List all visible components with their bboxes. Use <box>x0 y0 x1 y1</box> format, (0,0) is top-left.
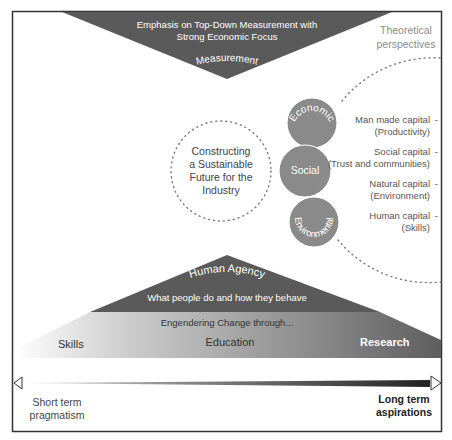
capital-item: Human capital (Skills) - <box>300 210 430 242</box>
center-line-4: Industry <box>176 184 266 197</box>
capital-desc: (Environment) <box>300 190 430 202</box>
center-line-1: Constructing <box>176 145 266 158</box>
band-research: Research <box>360 336 410 348</box>
short-term-line2: pragmatism <box>22 409 92 422</box>
band-caption: Engendering Change through... <box>127 317 327 328</box>
capital-dash: - <box>435 210 438 222</box>
perspective-arc-bottom <box>338 240 441 283</box>
capital-desc: (Skills) <box>300 222 430 234</box>
center-line-2: a Sustainable <box>176 158 266 171</box>
center-title: Constructing a Sustainable Future for th… <box>176 145 266 197</box>
top-emphasis-text: Emphasis on Top-Down Measurement with St… <box>100 19 354 43</box>
capital-dash: - <box>435 146 438 158</box>
long-term-line2: aspirations <box>368 406 440 419</box>
short-term-line1: Short term <box>22 396 92 409</box>
theoretical-perspectives-label: Theoretical perspectives <box>372 23 440 51</box>
band-education: Education <box>190 336 270 348</box>
arrow-right-icon <box>431 376 441 390</box>
human-agency-subtitle: What people do and how they behave <box>127 292 327 303</box>
long-term-label: Long term aspirations <box>368 393 440 419</box>
short-term-label: Short term pragmatism <box>22 396 92 422</box>
capital-desc: (Trust and communities) <box>300 158 430 170</box>
center-line-3: Future for the <box>176 171 266 184</box>
theoretical-line1: Theoretical <box>372 23 440 37</box>
arrow-left-icon <box>14 377 22 389</box>
capital-name: Man made capital <box>300 114 430 126</box>
capital-name: Social capital <box>300 146 430 158</box>
band-skills: Skills <box>58 338 84 350</box>
top-emphasis-line2: Strong Economic Focus <box>100 31 354 43</box>
capital-name: Natural capital <box>300 178 430 190</box>
capital-dash: - <box>435 114 438 126</box>
capital-name: Human capital <box>300 210 430 222</box>
top-emphasis-line1: Emphasis on Top-Down Measurement with <box>100 19 354 31</box>
capitals-list: Man made capital (Productivity) - Social… <box>300 114 430 242</box>
theoretical-line2: perspectives <box>372 37 440 51</box>
capital-dash: - <box>435 178 438 190</box>
capital-item: Social capital (Trust and communities) - <box>300 146 430 178</box>
timeline-arrow-shaft <box>22 380 430 387</box>
capital-item: Natural capital (Environment) - <box>300 178 430 210</box>
long-term-line1: Long term <box>368 393 440 406</box>
perspective-arc-top <box>342 58 441 101</box>
capital-item: Man made capital (Productivity) - <box>300 114 430 146</box>
capital-desc: (Productivity) <box>300 126 430 138</box>
